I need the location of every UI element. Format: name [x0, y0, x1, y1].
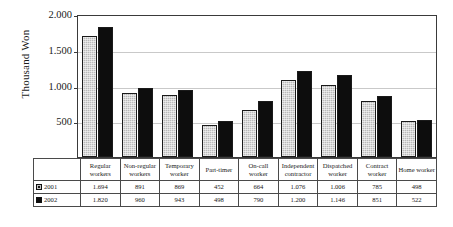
- category-header-6: Dispatchedworker: [318, 159, 358, 181]
- legend-label: 2002: [44, 196, 57, 203]
- bar-2001: [122, 93, 137, 157]
- bar-group: [197, 16, 237, 157]
- bar-2002: [178, 90, 193, 157]
- category-header-1: Non-regularworkers: [120, 159, 160, 181]
- bar-2001: [202, 125, 217, 157]
- bar-2002: [297, 71, 312, 157]
- category-header-2: Temporaryworker: [160, 159, 200, 181]
- data-table: RegularworkersNon-regularworkersTemporar…: [33, 158, 437, 207]
- bar-chart: Thousand Won -5001.0001.5002.000 Regular…: [0, 0, 453, 227]
- bar-2001: [242, 110, 257, 157]
- bar-2002: [417, 120, 432, 157]
- category-label-line: Part-timer: [200, 166, 239, 174]
- bar-group: [277, 16, 317, 157]
- bar-group: [317, 16, 357, 157]
- category-label-line: Home worker: [397, 166, 436, 174]
- bar-2002: [98, 27, 113, 157]
- value-cell: 869: [160, 181, 200, 194]
- category-header-7: Contractworker: [357, 159, 397, 181]
- bar-2001: [401, 121, 416, 157]
- category-label-line: Contract: [358, 162, 397, 170]
- legend-item-2001[interactable]: 2001: [34, 181, 81, 194]
- bar-2001: [162, 95, 177, 157]
- bar-group: [237, 16, 277, 157]
- value-cell: 498: [397, 181, 437, 194]
- category-label-line: On-call: [239, 162, 278, 170]
- category-label-line: worker: [239, 170, 278, 178]
- bar-2001: [321, 85, 336, 157]
- table-row: 20021.8209609434987901.2001.146851522: [34, 194, 437, 207]
- bar-2002: [258, 101, 273, 157]
- bar-group: [356, 16, 396, 157]
- category-label-line: Temporary: [160, 162, 199, 170]
- y-axis-tick-label: 500: [26, 117, 72, 127]
- bar-2002: [138, 88, 153, 157]
- plot-area: [77, 15, 437, 158]
- value-cell: 790: [239, 194, 279, 207]
- value-cell: 943: [160, 194, 200, 207]
- value-cell: 452: [199, 181, 239, 194]
- bars-layer: [78, 16, 436, 157]
- category-label-line: worker: [358, 170, 397, 178]
- category-label-line: worker: [160, 170, 199, 178]
- bar-group: [118, 16, 158, 157]
- y-axis-tick-label: 2.000: [26, 10, 72, 20]
- value-cell: 1.820: [81, 194, 121, 207]
- table-corner-cell: [34, 159, 81, 181]
- bar-2001: [281, 80, 296, 157]
- value-cell: 1.146: [318, 194, 358, 207]
- table-header-row: RegularworkersNon-regularworkersTemporar…: [34, 159, 437, 181]
- legend-swatch-icon: [36, 197, 42, 203]
- category-header-0: Regularworkers: [81, 159, 121, 181]
- value-cell: 664: [239, 181, 279, 194]
- value-cell: 1.006: [318, 181, 358, 194]
- value-cell: 1.694: [81, 181, 121, 194]
- value-cell: 522: [397, 194, 437, 207]
- legend-item-2002[interactable]: 2002: [34, 194, 81, 207]
- category-header-8: Home worker: [397, 159, 437, 181]
- bar-2001: [361, 101, 376, 157]
- value-cell: 1.076: [278, 181, 318, 194]
- value-cell: 891: [120, 181, 160, 194]
- category-header-4: On-callworker: [239, 159, 279, 181]
- bar-group: [396, 16, 436, 157]
- value-cell: 785: [357, 181, 397, 194]
- table-row: 20011.6948918694526641.0761.006785498: [34, 181, 437, 194]
- category-label-line: workers: [81, 170, 120, 178]
- legend-swatch-icon: [36, 184, 42, 190]
- bar-group: [78, 16, 118, 157]
- category-label-line: worker: [318, 170, 357, 178]
- category-label-line: Non-regular: [121, 162, 160, 170]
- category-header-5: Independentcontractor: [278, 159, 318, 181]
- y-axis-tick-labels: -5001.0001.5002.000: [26, 10, 72, 158]
- bar-2002: [377, 96, 392, 157]
- bar-2001: [82, 36, 97, 157]
- bar-group: [158, 16, 198, 157]
- category-label-line: contractor: [279, 170, 318, 178]
- legend-label: 2001: [44, 183, 57, 190]
- category-header-3: Part-timer: [199, 159, 239, 181]
- value-cell: 851: [357, 194, 397, 207]
- category-label-line: workers: [121, 170, 160, 178]
- value-cell: 1.200: [278, 194, 318, 207]
- category-label-line: Independent: [279, 162, 318, 170]
- y-axis-tick-label: 1.000: [26, 82, 72, 92]
- category-label-line: Regular: [81, 162, 120, 170]
- y-axis-tick-label: 1.500: [26, 46, 72, 56]
- bar-2002: [337, 75, 352, 157]
- bar-2002: [218, 121, 233, 157]
- value-cell: 498: [199, 194, 239, 207]
- value-cell: 960: [120, 194, 160, 207]
- category-label-line: Dispatched: [318, 162, 357, 170]
